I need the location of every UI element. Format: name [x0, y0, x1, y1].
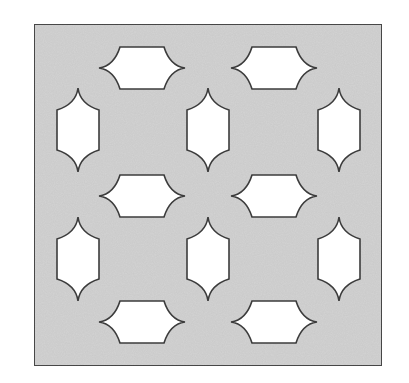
pierced-panel-figure [0, 0, 409, 383]
diagram-canvas [0, 0, 409, 383]
panel [34, 24, 382, 366]
